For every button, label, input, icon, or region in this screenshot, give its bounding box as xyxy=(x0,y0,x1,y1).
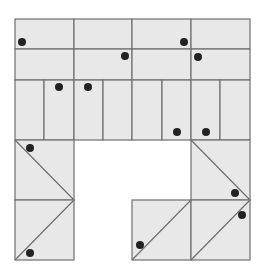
dot-marker xyxy=(121,52,129,60)
dot-marker xyxy=(231,189,239,197)
grid-cell xyxy=(103,80,132,140)
tiling-diagram xyxy=(0,0,262,273)
grid-cell xyxy=(74,19,132,49)
grid-cell xyxy=(220,80,250,140)
dot-marker xyxy=(136,241,144,249)
dot-marker xyxy=(180,38,188,46)
grid-cell xyxy=(15,80,44,140)
dot-marker xyxy=(238,211,246,219)
dot-marker xyxy=(26,144,34,152)
grid-cell xyxy=(15,49,74,80)
grid-cell xyxy=(132,49,191,80)
dot-marker xyxy=(194,53,202,61)
grid-cell xyxy=(191,19,250,49)
dot-marker xyxy=(202,128,210,136)
grid-cell xyxy=(132,80,162,140)
dot-marker xyxy=(173,128,181,136)
dot-marker xyxy=(18,38,26,46)
dot-marker xyxy=(84,83,92,91)
dot-marker xyxy=(26,249,34,257)
dot-marker xyxy=(55,83,63,91)
